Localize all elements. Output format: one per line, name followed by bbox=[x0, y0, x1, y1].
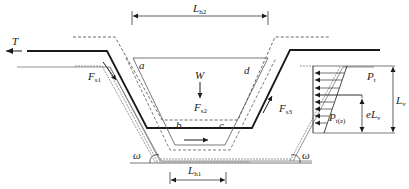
label-lv: Lv bbox=[396, 95, 406, 108]
label-elv: eLv bbox=[366, 109, 381, 122]
label-b: b bbox=[176, 120, 182, 131]
label-fs1: Fs1 bbox=[88, 71, 101, 84]
label-pt: Pt bbox=[367, 71, 376, 84]
label-omega-right: ω bbox=[302, 150, 310, 161]
label-ptz: Pt(z) bbox=[329, 112, 345, 125]
label-lh1: Lh1 bbox=[188, 165, 201, 178]
label-w: W bbox=[195, 70, 204, 81]
label-d: d bbox=[244, 65, 250, 76]
label-fs2: Fs2 bbox=[194, 102, 207, 115]
label-t: T bbox=[12, 36, 18, 47]
label-omega-left: ω bbox=[133, 150, 141, 161]
label-c: c bbox=[219, 120, 224, 131]
diagram-canvas bbox=[0, 0, 409, 189]
label-fs3: Fs3 bbox=[279, 103, 292, 116]
label-a: a bbox=[139, 60, 145, 71]
label-lh2: Lh2 bbox=[193, 3, 206, 16]
